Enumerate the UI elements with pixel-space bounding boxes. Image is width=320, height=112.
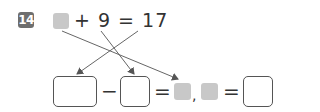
unknown-square-bottom-1	[174, 83, 191, 100]
comma: ,	[192, 85, 196, 105]
unknown-square-bottom-2	[201, 83, 218, 100]
minus-sign: −	[101, 81, 118, 101]
answer-box-1[interactable]	[53, 76, 97, 107]
equals-sign-1: =	[154, 81, 171, 101]
equals-sign-2: =	[223, 81, 240, 101]
answer-box-2[interactable]	[120, 76, 150, 107]
answer-box-3[interactable]	[243, 76, 273, 107]
